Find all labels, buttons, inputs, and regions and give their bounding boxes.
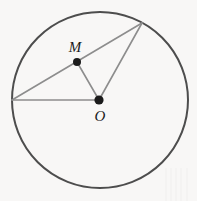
background-stripe-4 (186, 168, 188, 201)
background-stripe-1 (170, 168, 172, 201)
background-stripe-2 (175, 168, 177, 201)
point-dot-o (94, 95, 103, 104)
point-dot-m (73, 58, 81, 66)
background-stripe-0 (165, 168, 167, 201)
geometry-figure: OM (0, 0, 197, 201)
background-stripe-3 (180, 168, 182, 201)
point-label-o: O (95, 108, 106, 124)
figure-canvas: OM (0, 0, 197, 201)
point-label-m: M (68, 39, 83, 55)
